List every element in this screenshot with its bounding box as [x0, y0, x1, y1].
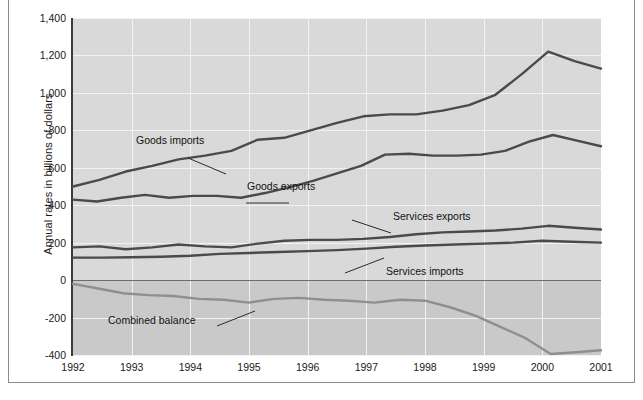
y-tick-label-0: 0	[8, 274, 66, 286]
x-tick-label-2001: 2001	[571, 361, 631, 373]
x-tick-label-1996: 1996	[278, 361, 338, 373]
annotation-services-exports: Services exports	[393, 210, 471, 222]
gridline-y--400	[73, 355, 601, 356]
chart-figure: Annual rates in billions of dollars -400…	[0, 0, 643, 400]
y-tick-label-1000: 1,000	[8, 87, 66, 99]
series-line-goods-imports	[73, 52, 601, 187]
y-tick-label-800: 800	[8, 124, 66, 136]
annotation-goods-exports: Goods exports	[247, 180, 315, 192]
series-line-services-exports	[73, 226, 601, 249]
y-tick-label--400: -400	[8, 349, 66, 361]
x-tick-label-1992: 1992	[43, 361, 103, 373]
frame-right-rule	[634, 0, 635, 383]
x-tick-label-1997: 1997	[336, 361, 396, 373]
annotation-goods-imports: Goods imports	[136, 134, 204, 146]
x-tick-label-1993: 1993	[102, 361, 162, 373]
x-tick-label-1994: 1994	[160, 361, 220, 373]
x-tick-label-1995: 1995	[219, 361, 279, 373]
y-tick-label-600: 600	[8, 162, 66, 174]
frame-bottom-rule	[8, 382, 635, 383]
series-lines	[73, 18, 601, 355]
x-tick-label-1998: 1998	[395, 361, 455, 373]
y-tick-label-200: 200	[8, 237, 66, 249]
y-tick-label-1200: 1,200	[8, 49, 66, 61]
y-tick-label-400: 400	[8, 199, 66, 211]
annotation-services-imports: Services imports	[386, 265, 464, 277]
series-line-services-imports	[73, 241, 601, 258]
y-tick-label-1400: 1,400	[8, 12, 66, 24]
x-tick-label-1999: 1999	[454, 361, 514, 373]
plot-area	[73, 18, 601, 355]
annotation-combined-balance: Combined balance	[108, 314, 196, 326]
x-tick-label-2000: 2000	[512, 361, 572, 373]
y-tick-label--200: -200	[8, 312, 66, 324]
